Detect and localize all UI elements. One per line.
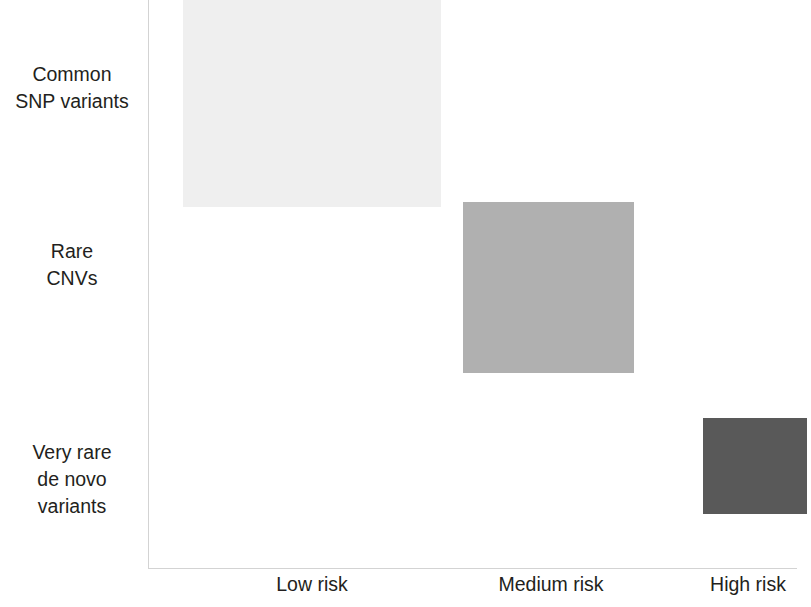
- data-box-rare-cnvs: [463, 202, 634, 373]
- y-axis-label-very-rare-de-novo-variants: Very rare de novo variants: [0, 439, 144, 520]
- y-axis-label-common-snp-variants: Common SNP variants: [0, 61, 144, 115]
- y-axis-line: [148, 0, 149, 569]
- x-axis-line: [148, 568, 797, 569]
- x-axis-label-high-risk: High risk: [710, 571, 786, 598]
- x-axis-label-low-risk: Low risk: [276, 571, 348, 598]
- data-box-common-snp-variants: [183, 0, 441, 207]
- y-axis-label-rare-cnvs: Rare CNVs: [0, 238, 144, 292]
- data-box-very-rare-de-novo-variants: [703, 418, 807, 514]
- x-axis-label-medium-risk: Medium risk: [498, 571, 603, 598]
- risk-variant-chart: Common SNP variants Rare CNVs Very rare …: [0, 0, 811, 607]
